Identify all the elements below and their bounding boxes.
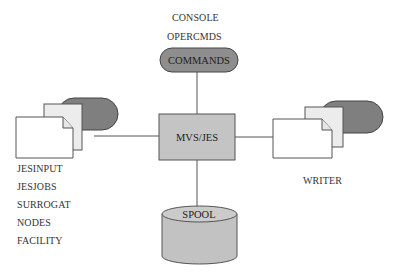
label-jesjobs: JESJOBS	[17, 181, 57, 192]
commands-node: COMMANDS	[160, 48, 238, 72]
label-surrogat: SURROGAT	[17, 199, 71, 210]
commands-label: COMMANDS	[168, 55, 230, 66]
label-jesinput: JESINPUT	[17, 163, 63, 174]
mvs-jes-node: MVS/JES	[159, 114, 235, 160]
right-resource-stack	[273, 101, 383, 158]
mvs-jes-label: MVS/JES	[176, 132, 218, 143]
label-nodes: NODES	[17, 217, 51, 228]
label-writer: WRITER	[303, 175, 342, 186]
label-opercmds: OPERCMDS	[167, 31, 222, 42]
spool-node: SPOOL	[162, 206, 237, 264]
left-resource-stack	[16, 98, 118, 158]
label-facility: FACILITY	[17, 235, 63, 246]
spool-label: SPOOL	[182, 209, 215, 220]
label-console: CONSOLE	[172, 12, 219, 23]
